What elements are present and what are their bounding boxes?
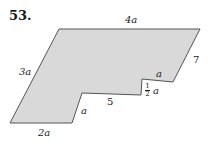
label-left: 3a xyxy=(19,67,31,77)
polygon-figure xyxy=(0,0,209,141)
label-step-height-fraction: 1 2 xyxy=(145,83,150,98)
fraction-denominator: 2 xyxy=(145,90,149,98)
label-inner-step-top: a xyxy=(156,69,162,79)
label-inner-bottom: 5 xyxy=(107,97,113,107)
fraction-numerator: 1 xyxy=(145,82,149,90)
label-bottom: 2a xyxy=(38,128,50,138)
label-step-height-var: a xyxy=(153,86,159,96)
label-top: 4a xyxy=(125,15,137,25)
shaded-polygon xyxy=(10,29,200,123)
label-right: 7 xyxy=(193,55,199,65)
label-inner-slant: a xyxy=(81,106,87,116)
